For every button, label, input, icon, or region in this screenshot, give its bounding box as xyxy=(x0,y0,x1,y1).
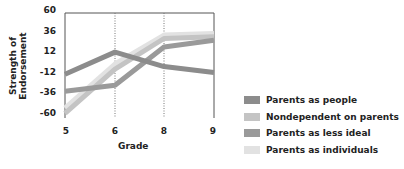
legend-swatch xyxy=(244,129,260,137)
x-tick: 9 xyxy=(203,126,223,136)
legend-label: Parents as people xyxy=(266,95,357,105)
legend-swatch xyxy=(244,113,260,121)
x-axis-label: Grade xyxy=(118,141,148,151)
legend: Parents as people Nondependent on parent… xyxy=(244,92,399,158)
legend-item: Parents as individuals xyxy=(244,142,399,159)
x-tick: 5 xyxy=(56,126,76,136)
legend-label: Nondependent on parents xyxy=(266,112,399,122)
x-tick: 6 xyxy=(105,126,125,136)
legend-swatch xyxy=(244,146,260,154)
legend-item: Nondependent on parents xyxy=(244,109,399,126)
legend-item: Parents as people xyxy=(244,92,399,109)
series-lines xyxy=(65,33,214,113)
legend-label: Parents as less ideal xyxy=(266,128,371,138)
x-tick: 8 xyxy=(154,126,174,136)
legend-swatch xyxy=(244,96,260,104)
legend-label: Parents as individuals xyxy=(266,145,378,155)
legend-item: Parents as less ideal xyxy=(244,125,399,142)
